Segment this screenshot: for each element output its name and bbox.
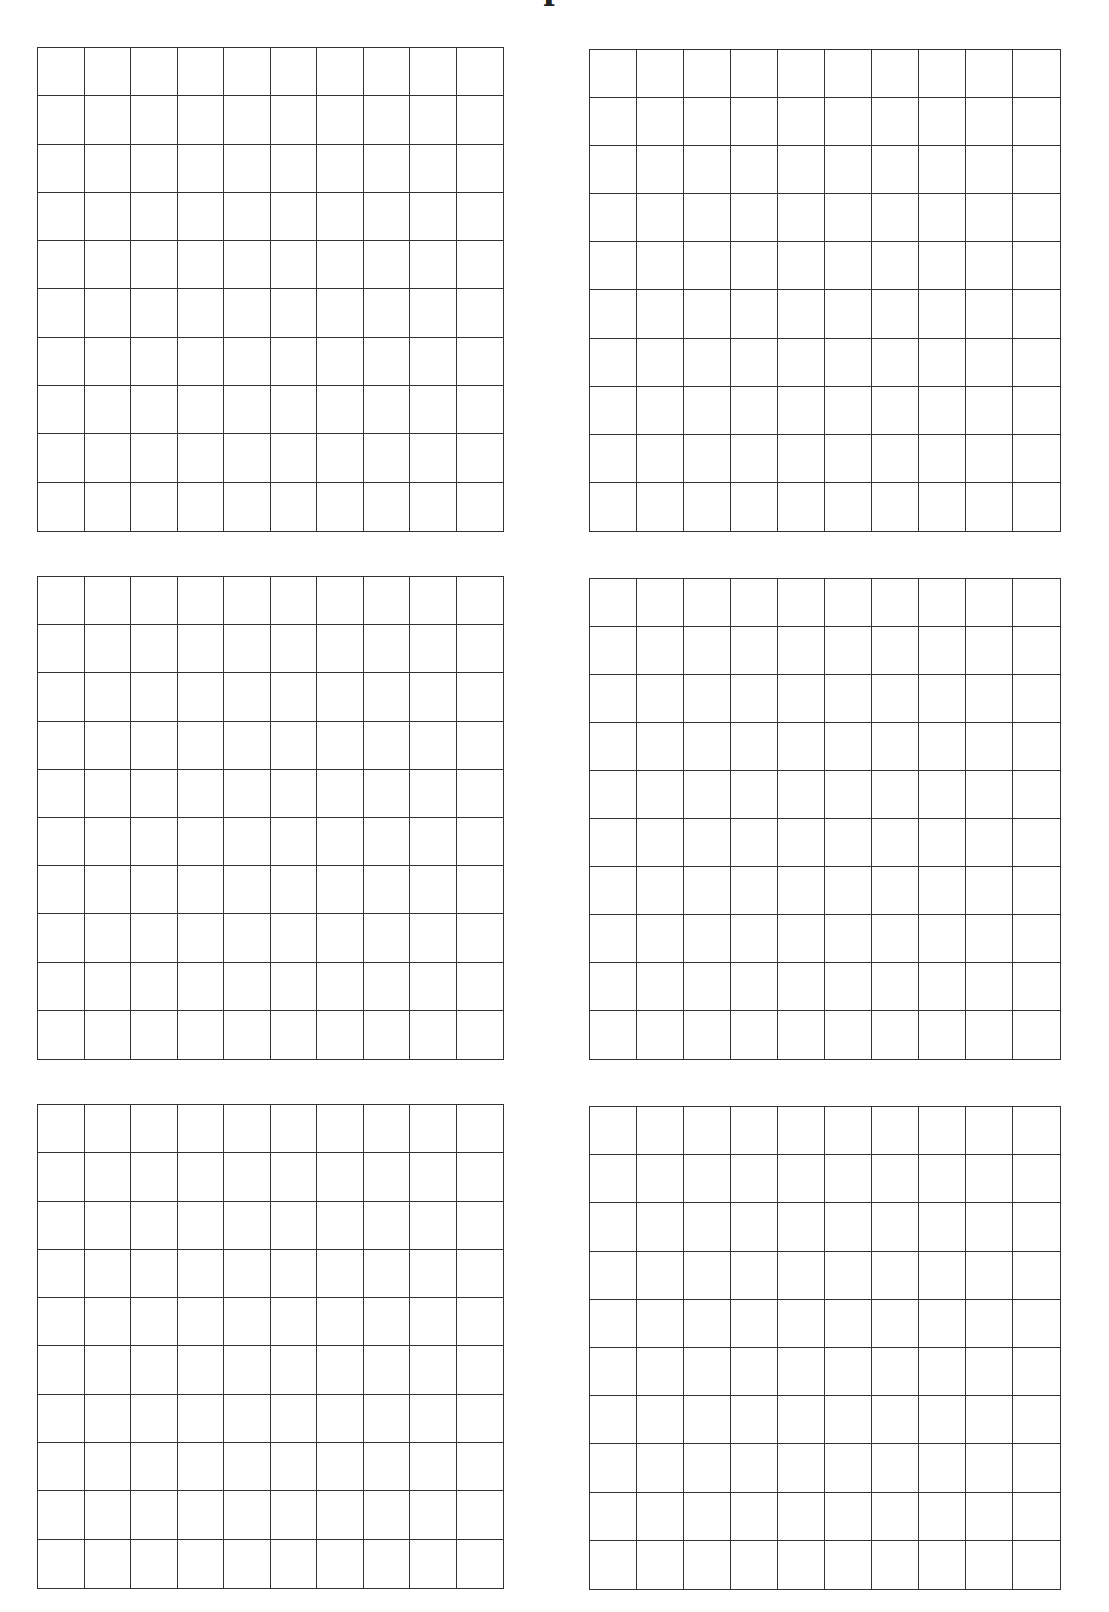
grid-cell	[872, 627, 919, 675]
grid-cell	[637, 1348, 684, 1396]
grid-cell	[224, 145, 271, 193]
grid-cell	[872, 290, 919, 338]
grid-cell	[364, 770, 411, 818]
grid-cell	[317, 1491, 364, 1539]
grid-cell	[590, 1493, 637, 1541]
grid-cell	[637, 50, 684, 98]
grid-cell	[38, 1540, 85, 1588]
grid-cell	[731, 242, 778, 290]
grid-cell	[85, 1491, 132, 1539]
grid-cell	[178, 338, 225, 386]
grid-cell	[457, 386, 504, 434]
grid-cell	[637, 194, 684, 242]
grid-cell	[825, 1107, 872, 1155]
grid-cell	[131, 1346, 178, 1394]
grid-cell	[590, 1107, 637, 1155]
grid-cell	[590, 50, 637, 98]
grid-cell	[966, 915, 1013, 963]
grid-cell	[457, 289, 504, 337]
grid-cell	[457, 1153, 504, 1201]
grid-cell	[590, 194, 637, 242]
grid-cell	[85, 1202, 132, 1250]
grid-cell	[966, 1396, 1013, 1444]
grid-cell	[1013, 387, 1060, 435]
grid-cell	[178, 1298, 225, 1346]
grid-cell	[364, 1153, 411, 1201]
grid-cell	[317, 625, 364, 673]
grid-cell	[872, 242, 919, 290]
grid-cell	[637, 435, 684, 483]
grid-cell	[364, 673, 411, 721]
grid-cell	[966, 675, 1013, 723]
grid-cell	[410, 818, 457, 866]
grid-cell	[85, 1540, 132, 1588]
grid-cell	[1013, 1107, 1060, 1155]
grid-cell	[1013, 771, 1060, 819]
grid-cell	[178, 1395, 225, 1443]
grid-cell	[317, 483, 364, 531]
grid-cell	[966, 771, 1013, 819]
grid-cell	[85, 96, 132, 144]
grid-cell	[778, 675, 825, 723]
grid-cell	[317, 673, 364, 721]
grid-cell	[825, 50, 872, 98]
grid-cell	[919, 1155, 966, 1203]
grid-cell	[38, 434, 85, 482]
grid-cell	[317, 338, 364, 386]
grid-cell	[364, 48, 411, 96]
grid-cell	[1013, 963, 1060, 1011]
grid-cell	[966, 819, 1013, 867]
grid-cell	[85, 1105, 132, 1153]
grid-cell	[364, 1443, 411, 1491]
grid-cell	[684, 1011, 731, 1059]
grid-cell	[966, 723, 1013, 771]
grid-cell	[919, 1300, 966, 1348]
grid-cell	[410, 96, 457, 144]
grid-cell	[410, 241, 457, 289]
grid-cell	[410, 1011, 457, 1059]
grid-cell	[317, 241, 364, 289]
grid-cell	[637, 242, 684, 290]
grid-cell	[731, 963, 778, 1011]
grid-cell	[778, 435, 825, 483]
grid-cell	[131, 48, 178, 96]
grid-cell	[224, 96, 271, 144]
grid-cell	[825, 723, 872, 771]
grid-cell	[825, 1541, 872, 1589]
grid-cell	[85, 289, 132, 337]
grid-cell	[271, 241, 318, 289]
grid-cell	[131, 963, 178, 1011]
grid-cell	[872, 339, 919, 387]
grid-cell	[364, 483, 411, 531]
grid-cell	[364, 963, 411, 1011]
grid-cell	[590, 339, 637, 387]
grid-cell	[684, 819, 731, 867]
grid-cell	[271, 577, 318, 625]
hundreds-grid-middle-right	[589, 578, 1061, 1060]
grid-cell	[731, 483, 778, 531]
grid-cell	[637, 387, 684, 435]
grid-cell	[317, 1250, 364, 1298]
grid-cell	[85, 483, 132, 531]
grid-cell	[410, 963, 457, 1011]
grid-cell	[1013, 1203, 1060, 1251]
grid-cell	[317, 1011, 364, 1059]
grid-cell	[85, 145, 132, 193]
grid-cell	[919, 1541, 966, 1589]
grid-cell	[178, 866, 225, 914]
grid-cell	[457, 673, 504, 721]
grid-cell	[271, 673, 318, 721]
hundreds-grid-top-right	[589, 49, 1061, 532]
grid-cell	[590, 290, 637, 338]
grid-cell	[590, 867, 637, 915]
grid-cell	[966, 1493, 1013, 1541]
grid-cell	[38, 818, 85, 866]
grid-cell	[38, 1202, 85, 1250]
grid-cell	[919, 627, 966, 675]
grid-cell	[1013, 1300, 1060, 1348]
grid-cell	[778, 915, 825, 963]
grid-cell	[731, 146, 778, 194]
grid-cell	[85, 1346, 132, 1394]
grid-cell	[271, 1202, 318, 1250]
grid-cell	[1013, 723, 1060, 771]
